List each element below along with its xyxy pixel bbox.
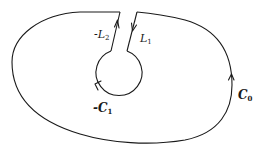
outer-contour-c0 xyxy=(12,12,232,143)
label-c0: C0 xyxy=(238,89,252,102)
label-base: C xyxy=(238,88,248,102)
label-subscript: 1 xyxy=(147,38,151,46)
label-neg-l2: -L2 xyxy=(94,29,110,42)
label-neg-c1: -C1 xyxy=(93,102,112,115)
label-subscript: 0 xyxy=(248,94,253,103)
slit-line-l1 xyxy=(127,12,137,51)
keyhole-contour-diagram xyxy=(0,0,262,150)
label-base: C xyxy=(98,101,108,115)
slit-line-neg-l2 xyxy=(111,12,120,51)
inner-circle-neg-c1 xyxy=(96,51,142,96)
label-subscript: 1 xyxy=(108,107,113,116)
label-l1: L1 xyxy=(140,33,152,46)
label-subscript: 2 xyxy=(105,34,109,42)
label-base: L xyxy=(98,28,105,41)
